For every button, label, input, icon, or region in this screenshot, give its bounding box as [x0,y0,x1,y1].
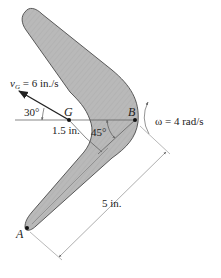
velocity-value: = 6 in./s [20,77,59,89]
angle-30-arc [42,108,44,120]
distance-gb-label: 1.5 in. [52,125,80,136]
boomerang-diagram: vG = 6 in./s 30° G B A 1.5 in. 45° ω = 4… [0,0,221,278]
angle-30-label: 30° [24,107,39,118]
velocity-label: vG = 6 in./s [10,78,59,91]
angle-45-label: 45° [91,127,106,138]
rib-line [32,148,108,224]
extension-line-b [140,126,170,154]
point-a-dot [25,226,29,230]
omega-arc [144,102,149,134]
point-g-label: G [64,106,73,118]
point-b-label: B [128,106,135,118]
distance-ab-label: 5 in. [102,198,122,209]
omega-label: ω = 4 rad/s [155,116,204,127]
point-a-label: A [16,228,23,240]
extension-line-a [30,232,62,260]
diagram-canvas [0,0,221,278]
